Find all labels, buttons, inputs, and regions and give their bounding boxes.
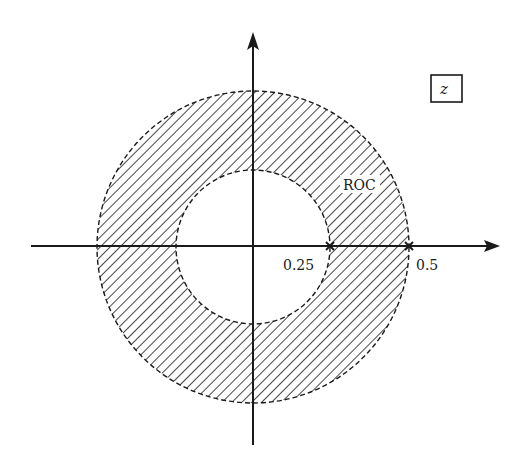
tick-label-0.25: 0.25 [283, 257, 314, 273]
z-plane-diagram: 0.25 0.5 ROC z [0, 0, 523, 467]
roc-label: ROC [343, 177, 376, 193]
plane-label-box: z [431, 75, 462, 102]
plane-label: z [439, 80, 448, 98]
roc-region [0, 0, 523, 467]
tick-label-0.5: 0.5 [416, 257, 438, 273]
